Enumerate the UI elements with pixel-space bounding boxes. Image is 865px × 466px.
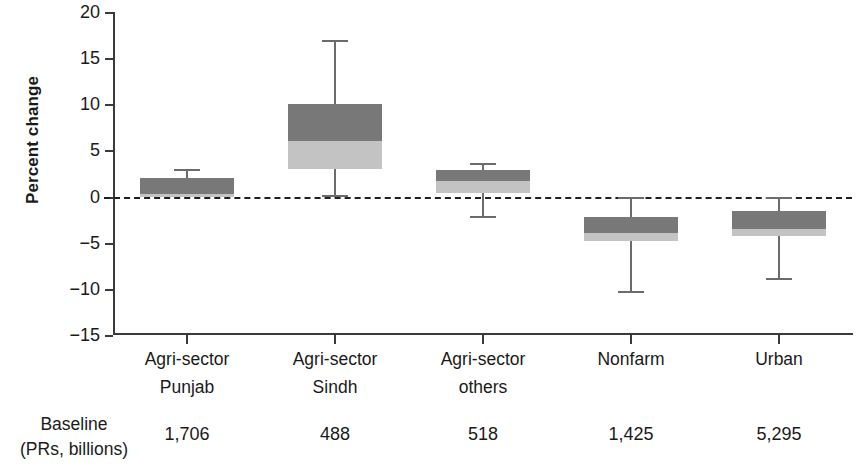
category-label-line2: Sindh — [293, 373, 378, 401]
whisker-cap-lower — [766, 278, 792, 280]
box-plot-group — [409, 12, 557, 335]
box-plot-group — [705, 12, 853, 335]
box-plot-group — [557, 12, 705, 335]
box-body — [140, 178, 234, 196]
box-segment-upper — [584, 217, 678, 234]
box-segment-lower — [436, 181, 530, 193]
box-segment-upper — [140, 178, 234, 194]
box-segment-upper — [732, 211, 826, 229]
whisker-cap-upper — [766, 197, 792, 199]
whisker-upper — [778, 197, 780, 212]
category-label-line1: Agri-sector — [145, 345, 230, 373]
category-label-line2: others — [441, 373, 526, 401]
whisker-cap-upper — [470, 163, 496, 165]
y-tick-label: −5 — [30, 232, 100, 253]
y-tick-mark — [105, 150, 113, 152]
whisker-lower — [334, 169, 336, 197]
whisker-cap-lower — [322, 195, 348, 197]
whisker-cap-upper — [322, 40, 348, 42]
baseline-row-label-line2: (PRs, billions) — [4, 437, 144, 462]
baseline-value: 518 — [468, 424, 498, 445]
y-tick-label: 0 — [30, 186, 100, 207]
category-label: Agri-sectorPunjab — [145, 345, 230, 401]
box-body — [436, 170, 530, 193]
plot-area: 20151050−5−10−15 — [113, 12, 853, 335]
x-tick-mark — [186, 335, 188, 344]
y-tick-mark — [105, 243, 113, 245]
y-tick-label: 20 — [30, 2, 100, 23]
box-body — [584, 217, 678, 241]
box-plot-group — [113, 12, 261, 335]
whisker-cap-lower — [618, 291, 644, 293]
category-label-line1: Agri-sector — [441, 345, 526, 373]
y-tick-label: −15 — [30, 325, 100, 346]
category-label-line1: Agri-sector — [293, 345, 378, 373]
box-plot-figure: Percent change 20151050−5−10−15 Agri-sec… — [0, 0, 865, 466]
y-tick-label: 5 — [30, 140, 100, 161]
category-label-line1: Nonfarm — [597, 345, 664, 373]
category-label-line2: Punjab — [145, 373, 230, 401]
category-label-line1: Urban — [755, 345, 803, 373]
baseline-value: 1,706 — [164, 424, 209, 445]
box-body — [288, 104, 382, 169]
category-label: Urban — [755, 345, 803, 373]
whisker-cap-upper — [618, 197, 644, 199]
baseline-value: 1,425 — [608, 424, 653, 445]
baseline-value: 5,295 — [756, 424, 801, 445]
baseline-value: 488 — [320, 424, 350, 445]
whisker-upper — [630, 197, 632, 217]
category-label: Nonfarm — [597, 345, 664, 373]
whisker-lower — [778, 236, 780, 279]
box-segment-lower — [584, 233, 678, 240]
y-tick-mark — [105, 289, 113, 291]
category-label: Agri-sectorothers — [441, 345, 526, 401]
whisker-lower — [630, 241, 632, 294]
y-tick-label: 15 — [30, 48, 100, 69]
baseline-row-label-line1: Baseline — [4, 412, 144, 437]
x-tick-mark — [334, 335, 336, 344]
box-segment-upper — [288, 104, 382, 141]
y-tick-label: −10 — [30, 278, 100, 299]
x-tick-mark — [482, 335, 484, 344]
y-tick-label: 10 — [30, 94, 100, 115]
whisker-lower — [482, 193, 484, 218]
whisker-upper — [334, 40, 336, 105]
whisker-cap-upper — [174, 169, 200, 171]
baseline-row-label: Baseline (PRs, billions) — [4, 412, 144, 462]
y-tick-mark — [105, 104, 113, 106]
x-tick-mark — [630, 335, 632, 344]
box-segment-lower — [140, 194, 234, 197]
whisker-cap-lower — [470, 216, 496, 218]
y-tick-mark — [105, 335, 113, 337]
box-segment-lower — [288, 141, 382, 169]
category-label: Agri-sectorSindh — [293, 345, 378, 401]
box-body — [732, 211, 826, 236]
y-tick-mark — [105, 12, 113, 14]
box-segment-upper — [436, 170, 530, 181]
box-segment-lower — [732, 229, 826, 236]
y-tick-mark — [105, 58, 113, 60]
box-plot-group — [261, 12, 409, 335]
x-tick-mark — [778, 335, 780, 344]
